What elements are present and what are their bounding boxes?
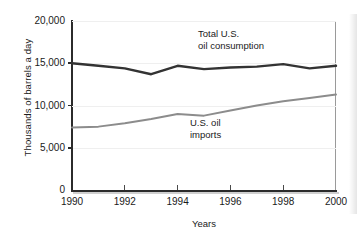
chart-figure: Thousands of barrels a day 05,00010,0001… bbox=[0, 0, 357, 238]
y-tick-label: 10,000 bbox=[34, 101, 65, 111]
x-tick-label: 1998 bbox=[272, 197, 294, 207]
y-tick-label: 15,000 bbox=[34, 58, 65, 68]
series-annotation-consumption: Total U.S. oil consumption bbox=[198, 28, 264, 51]
y-tick-label: 20,000 bbox=[34, 16, 65, 26]
x-tick-label: 1994 bbox=[166, 197, 188, 207]
x-axis-title: Years bbox=[72, 218, 336, 229]
x-tick-label: 1992 bbox=[114, 197, 136, 207]
y-tick-label: 0 bbox=[59, 185, 65, 195]
x-axis-shadow bbox=[73, 192, 339, 194]
series-line bbox=[72, 63, 336, 74]
x-tick-label: 1990 bbox=[61, 197, 83, 207]
x-tick-label: 2000 bbox=[325, 197, 347, 207]
y-tick-label: 5,000 bbox=[40, 143, 65, 153]
x-tick-label: 1996 bbox=[219, 197, 241, 207]
plot-area: 05,00010,00015,00020,000 199019921994199… bbox=[72, 21, 336, 190]
series-annotation-imports: U.S. oil imports bbox=[190, 117, 221, 140]
page-edge-shading bbox=[349, 14, 357, 214]
y-axis-title: Thousands of barrels a day bbox=[22, 8, 33, 188]
